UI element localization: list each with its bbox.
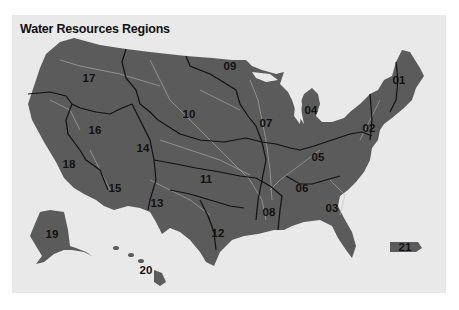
- alaska-landmass: [30, 210, 92, 264]
- region-label-19: 19: [46, 228, 59, 240]
- region-label-17: 17: [83, 72, 96, 84]
- us-map: [0, 0, 459, 310]
- region-label-16: 16: [89, 124, 102, 136]
- region-label-20: 20: [140, 264, 153, 276]
- region-label-09: 09: [224, 60, 237, 72]
- region-label-11: 11: [200, 173, 212, 185]
- region-label-05: 05: [312, 151, 325, 163]
- region-label-18: 18: [63, 158, 76, 170]
- map-title: Water Resources Regions: [20, 22, 170, 36]
- region-label-03: 03: [326, 202, 339, 214]
- region-label-10: 10: [183, 108, 196, 120]
- region-label-13: 13: [151, 197, 164, 209]
- region-label-06: 06: [296, 182, 309, 194]
- region-label-21: 21: [399, 241, 412, 253]
- region-label-04: 04: [305, 104, 318, 116]
- region-label-02: 02: [363, 122, 376, 134]
- region-label-14: 14: [137, 142, 150, 154]
- region-label-12: 12: [212, 227, 225, 239]
- region-label-08: 08: [263, 206, 276, 218]
- region-label-01: 01: [393, 74, 406, 86]
- region-label-07: 07: [260, 117, 273, 129]
- region-label-15: 15: [109, 182, 122, 194]
